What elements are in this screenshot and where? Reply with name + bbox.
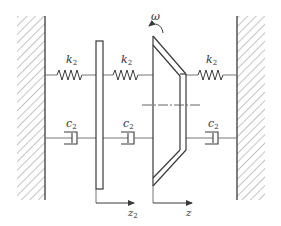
- axis-z-label: z: [185, 207, 192, 218]
- plate-body: [96, 41, 103, 189]
- left-wall-hatch: [17, 16, 45, 200]
- spring-left-label: k2: [66, 53, 77, 67]
- damper-left-label: c2: [66, 117, 77, 131]
- right-wall-hatch: [237, 16, 265, 200]
- axis-z2-label: z2: [127, 207, 138, 220]
- damper-middle-label: c2: [123, 117, 134, 131]
- axis-z2: z2: [96, 189, 138, 220]
- rotation-indicator: ω: [149, 10, 163, 33]
- damper-left: c2: [45, 117, 96, 144]
- left-wall: [17, 16, 45, 200]
- damper-middle: c2: [103, 117, 153, 144]
- damper-right-label: c2: [208, 117, 219, 131]
- right-wall: [237, 16, 265, 200]
- mechanical-model-diagram: k2 k2 k2 c2 c2 c2: [0, 0, 281, 226]
- spring-middle: k2: [103, 53, 153, 80]
- spring-right: k2: [186, 53, 237, 80]
- rotation-arrow-icon: [149, 24, 163, 33]
- axis-z: z: [153, 186, 192, 218]
- damper-right: c2: [186, 117, 237, 144]
- spring-right-label: k2: [206, 53, 217, 67]
- conical-body: [153, 36, 186, 186]
- spring-left: k2: [45, 53, 96, 80]
- omega-label: ω: [151, 10, 160, 23]
- spring-middle-label: k2: [121, 53, 132, 67]
